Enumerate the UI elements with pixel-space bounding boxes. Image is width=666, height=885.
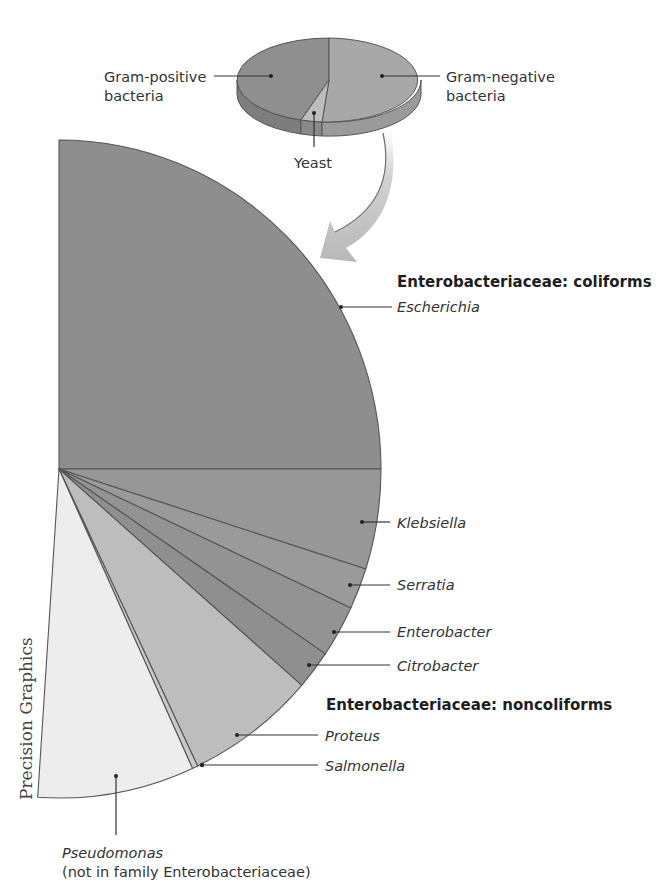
overview-pie [237,38,421,136]
label-enterobacter: Enterobacter [397,624,492,640]
slice-escherichia [59,140,381,469]
label-salmonella: Salmonella [325,758,405,774]
callout-dot [380,74,384,78]
label-gram-negative-1: Gram-negative [446,69,555,85]
figure-canvas: Gram-positive bacteria Gram-negative bac… [0,0,666,885]
curved-arrow-icon [320,130,393,262]
label-yeast: Yeast [293,155,332,171]
credit-text: Precision Graphics [16,637,36,800]
label-gram-positive-1: Gram-positive [104,69,206,85]
heading-noncoliforms: Enterobacteriaceae: noncoliforms [326,696,612,714]
label-gram-negative-2: bacteria [446,88,506,104]
label-proteus: Proteus [325,728,380,744]
callout-dot [312,111,316,115]
label-gram-positive-2: bacteria [104,88,164,104]
label-serratia: Serratia [397,577,455,593]
label-pseudomonas: Pseudomonas [62,845,164,861]
heading-coliforms: Enterobacteriaceae: coliforms [397,273,652,291]
label-citrobacter: Citrobacter [397,658,479,674]
label-pseudomonas-note: (not in family Enterobacteriaceae) [62,864,311,880]
label-escherichia: Escherichia [397,299,480,315]
pie-side-yeast [301,120,322,136]
label-klebsiella: Klebsiella [397,515,466,531]
callout-dot [269,74,273,78]
